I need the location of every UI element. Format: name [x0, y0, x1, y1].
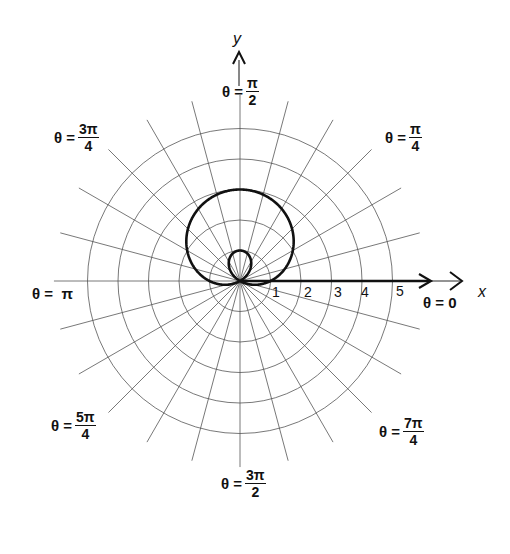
fraction: 7π4: [403, 416, 424, 447]
fraction: π2: [246, 76, 259, 107]
grid-ray: [108, 149, 240, 281]
grid-ray: [192, 281, 240, 461]
grid-ray: [240, 120, 333, 281]
grid-ray: [79, 281, 240, 374]
theta-prefix: θ =: [51, 418, 72, 433]
denominator: 2: [249, 92, 257, 107]
y-axis-label: y: [233, 30, 241, 48]
grid-ray: [240, 281, 372, 413]
fraction: 3π4: [78, 122, 99, 153]
theta-prefix: θ =: [379, 424, 400, 439]
r-tick-2: 2: [304, 284, 312, 300]
fraction: 5π4: [75, 410, 96, 441]
label-theta-pi: θ = π: [32, 286, 73, 301]
theta-value: 0: [448, 295, 456, 310]
theta-value: π: [61, 286, 72, 301]
r-tick-4: 4: [361, 284, 369, 300]
grid-ray: [240, 281, 333, 442]
label-theta-pi-over-2: θ = π2: [222, 76, 259, 107]
grid-ray: [60, 281, 240, 329]
denominator: 2: [251, 484, 259, 499]
grid-ray: [240, 149, 372, 281]
grid-ray: [147, 120, 240, 281]
grid-ray: [240, 281, 401, 374]
denominator: 4: [84, 138, 92, 153]
theta-prefix: θ =: [221, 476, 242, 491]
grid-ray: [79, 188, 240, 281]
grid-ray: [147, 281, 240, 442]
grid-ray: [60, 233, 240, 281]
fraction: 3π2: [245, 468, 266, 499]
label-theta-0: θ = 0: [423, 295, 457, 310]
label-theta-pi-over-4: θ = π4: [385, 122, 422, 153]
numerator: π: [409, 122, 422, 138]
theta-prefix: θ =: [423, 295, 444, 310]
fraction: π4: [409, 122, 422, 153]
numerator: 3π: [78, 122, 99, 138]
denominator: 4: [409, 432, 417, 447]
numerator: 3π: [245, 468, 266, 484]
grid-ray: [240, 188, 401, 281]
denominator: 4: [81, 426, 89, 441]
label-theta-3pi-over-4: θ = 3π4: [54, 122, 99, 153]
grid-ray: [108, 281, 240, 413]
r-tick-3: 3: [334, 284, 342, 300]
theta-prefix: θ =: [54, 130, 75, 145]
theta-prefix: θ =: [32, 286, 53, 301]
numerator: 7π: [403, 416, 424, 432]
numerator: π: [246, 76, 259, 92]
grid-ray: [240, 233, 420, 281]
r-tick-1: 1: [272, 284, 280, 300]
numerator: 5π: [75, 410, 96, 426]
label-theta-3pi-over-2: θ = 3π2: [221, 468, 266, 499]
r-tick-5: 5: [396, 283, 404, 299]
x-axis-label: x: [478, 283, 486, 301]
theta-prefix: θ =: [385, 130, 406, 145]
grid-ray: [240, 281, 420, 329]
denominator: 4: [412, 138, 420, 153]
theta-prefix: θ =: [222, 84, 243, 99]
label-theta-5pi-over-4: θ = 5π4: [51, 410, 96, 441]
grid-ray: [240, 281, 288, 461]
label-theta-7pi-over-4: θ = 7π4: [379, 416, 424, 447]
